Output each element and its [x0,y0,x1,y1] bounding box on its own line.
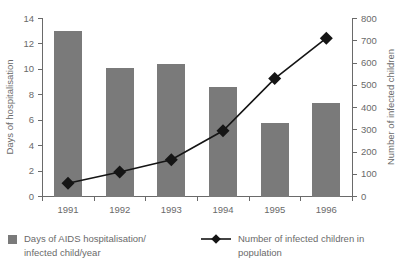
x-tick-label: 1993 [161,204,182,215]
square-swatch-icon [8,235,17,244]
chart-figure: Days of hospitalisation Number of infect… [0,0,403,277]
line-series [62,32,333,190]
left-axis-ticks [38,19,43,197]
y2-tick-label: 500 [361,79,377,90]
right-axis-tick-labels: 0 100 200 300 400 500 600 700 800 [361,13,377,202]
y-tick-label: 6 [29,114,34,125]
y-axis-title: Days of hospitalisation [4,59,15,154]
x-axis [43,197,353,202]
y2-tick-label: 100 [361,168,377,179]
left-axis-tick-labels: 0 2 4 6 8 10 12 14 [23,13,34,202]
right-axis-ticks [353,19,358,197]
y2-tick-label: 600 [361,57,377,68]
x-axis-tick-labels: 1991 1992 1993 1994 1995 1996 [57,204,336,215]
x-tick-label: 1994 [212,204,233,215]
y2-tick-label: 400 [361,102,377,113]
y-tick-label: 10 [23,63,34,74]
line-markers [62,32,333,190]
y-tick-label: 14 [23,13,34,24]
legend-label-bars: Days of AIDS hospitalisation/ infected c… [24,232,146,259]
y2-tick-label: 0 [361,191,366,202]
bar-1994 [209,87,237,197]
bar-series [54,31,340,196]
y2-axis-title: Number of infected children [385,49,396,165]
diamond-line-swatch-icon [201,233,231,245]
chart-svg: Days of hospitalisation Number of infect… [0,0,403,225]
y-tick-label: 12 [23,38,34,49]
x-tick-label: 1996 [316,204,337,215]
bar-1996 [312,103,340,197]
chart-legend: Days of AIDS hospitalisation/ infected c… [0,228,403,277]
bar-1995 [261,123,289,197]
right-axis: 0 100 200 300 400 500 600 700 800 [353,13,377,202]
y2-tick-label: 700 [361,35,377,46]
y-tick-label: 8 [29,89,34,100]
y2-tick-label: 200 [361,146,377,157]
y2-tick-label: 300 [361,124,377,135]
x-tick-label: 1991 [57,204,78,215]
left-axis: 0 2 4 6 8 10 12 14 [23,13,42,202]
bar-1991 [54,31,82,196]
bar-1993 [157,64,185,196]
x-tick-label: 1995 [264,204,285,215]
legend-label-line: Number of infected children in populatio… [238,232,364,259]
x-tick-label: 1992 [109,204,130,215]
y-tick-label: 4 [29,140,34,151]
legend-item-line: Number of infected children in populatio… [201,232,401,259]
y-tick-label: 2 [29,165,34,176]
legend-item-bars: Days of AIDS hospitalisation/ infected c… [8,232,193,259]
plot-area: Days of hospitalisation Number of infect… [0,0,403,225]
y2-tick-label: 800 [361,13,377,24]
y-tick-label: 0 [29,191,34,202]
